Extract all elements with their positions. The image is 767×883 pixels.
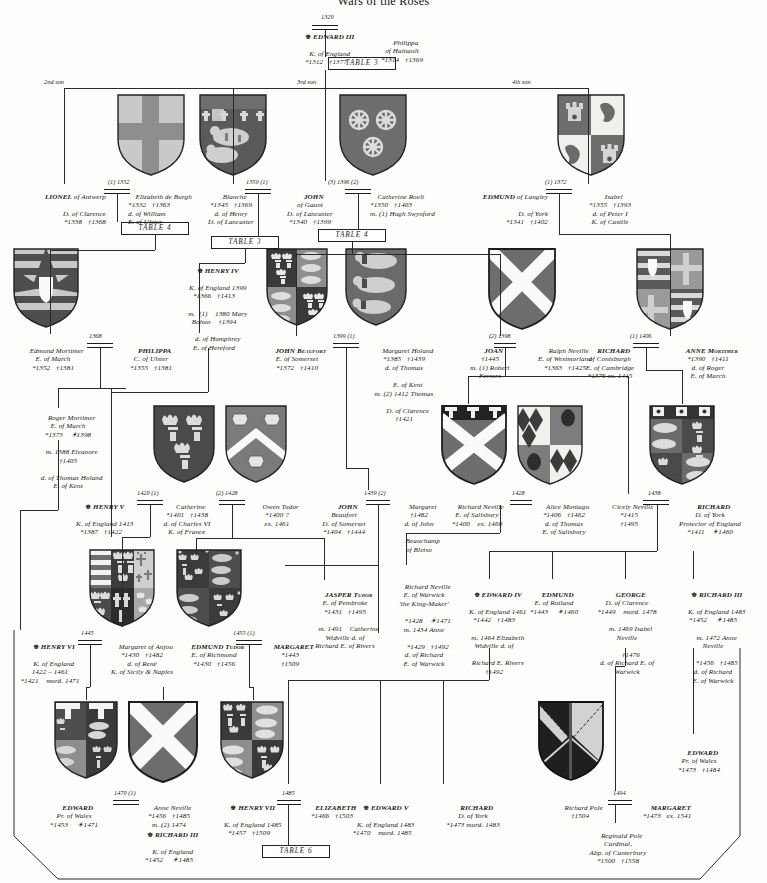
- person-edmund-rutland: EDMUNDE. of Rutland*1443 ☀1460: [522, 582, 586, 625]
- person-john-gaunt: JOHNof GauntD. of Lancaster*1340 †1399: [270, 184, 350, 236]
- person-edward-v: ♚ EDWARD V K. of England 1483*1470 murd.…: [336, 795, 428, 847]
- person-anne-mortimer: ANNE Mortimer*1390 †1411d. of RogerE. of…: [658, 338, 758, 390]
- crown-icon: ♚: [230, 804, 236, 811]
- person-reginald-pole: Reginald PoleCardinal,Abp. of Canterbury…: [572, 823, 664, 875]
- person-cicely-neville: Cicely Neville*1415†1495: [600, 494, 658, 537]
- person-henry-vi: ♚ HENRY VI K. of England1422 – 1461*1421…: [10, 634, 90, 694]
- person-henry-v: ♚ HENRY V K. of England 1413*1387 †1422: [62, 494, 140, 546]
- person-richard-york: RICHARDD. of YorkProtector of England*14…: [660, 494, 760, 546]
- person-edmund-tudor: EDMUND TudorE. of Richmond*1430 †1456: [172, 634, 256, 677]
- person-richard-iii-top: ♚ RICHARD III K. of England 1483*1452 ☀1…: [664, 582, 762, 694]
- crown-icon: ♚: [85, 503, 91, 510]
- person-john-beaufort: JOHN BeaufortE. of Somerset*1372 †1410: [258, 338, 336, 381]
- crown-icon: ♚: [363, 804, 369, 811]
- crown-icon: ♚: [691, 591, 697, 598]
- person-edward-pr-wales-1484: EDWARDPr. of Wales*1473 †1484: [660, 740, 738, 783]
- person-margaret-holand: Margaret Holand*1385 †1439d. of Thomas E…: [352, 338, 456, 433]
- person-margaret-beaufort: MARGARET*1443†1509: [258, 634, 322, 677]
- person-lionel-antwerp: LIONEL of Antwerp D. of Clarence*1338 †1…: [0, 184, 106, 236]
- person-alice-montagu: Alice Montagu*1406 †1462d. of ThomasE. o…: [524, 494, 604, 546]
- person-richard-iii-bottom: ♚ RICHARD III K. of England*1452 ☀1485: [126, 822, 212, 874]
- person-henry-vii: ♚ HENRY VII K. of England 1485*1457 †150…: [202, 795, 296, 847]
- person-blanche: Blanche*1345 †1369d. of HenryD. of Lanca…: [186, 184, 276, 236]
- crown-icon: ♚: [33, 643, 39, 650]
- crown-icon: ♚: [147, 831, 153, 838]
- genealogy-chart: Wars of the Roses: [0, 0, 767, 883]
- person-edmund-langley: EDMUND of Langley D. of York*1341 †1402: [440, 184, 548, 236]
- person-edmund-mortimer: Edmund MortimerE. of March*1352 †1381: [16, 338, 90, 381]
- person-roger-mortimer: Roger MortimerE. of March*1373 ☀1398 m. …: [20, 405, 116, 500]
- crown-icon: ♚: [474, 591, 480, 598]
- crown-icon: ♚: [305, 33, 311, 40]
- person-isabel-castile: Isabel*1355 †1393d. of Peter IK. of Cast…: [570, 184, 650, 236]
- person-george-clarence: GEORGED. of Clarence*1449 murd. 1478 m. …: [582, 582, 672, 685]
- person-owen-tudor: Owen Tudor*1400 ?ex. 1461: [240, 494, 314, 537]
- person-richard-york-duke: RICHARDD. of York*1473 murd. 1483: [432, 795, 514, 838]
- person-richard-neville-salisbury: Richard NevilleE. of Salisbury*1400 ex. …: [440, 494, 514, 537]
- person-john-beaufort-2: JOHNBeaufortD. of Somerset*1404 †1444: [316, 494, 372, 546]
- person-richard-conisburgh: RICHARDof ConisburghE. of Cambridge*1376…: [568, 338, 652, 390]
- person-catherine-valois: Catherine*1401 †1438d. of Charles VIK. o…: [146, 494, 228, 546]
- person-edward-pr-wales-1471: EDWARDPr. of Wales*1453 ☀1471: [38, 795, 110, 838]
- person-philippa-hainault: Philippaof Hainault*1314 †1369: [338, 30, 466, 73]
- person-joan: JOAN†1445m. (1) RobertFerrers: [462, 338, 518, 390]
- crown-icon: ♚: [197, 267, 203, 274]
